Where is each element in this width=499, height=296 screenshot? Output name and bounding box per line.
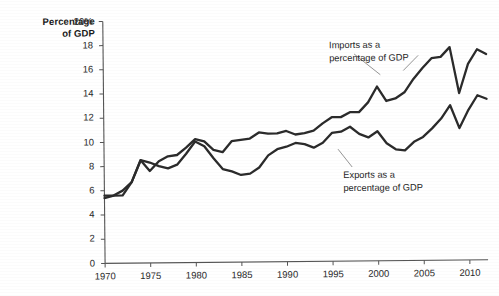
y-tick-label: 20% xyxy=(67,15,93,26)
y-tick-label: 10 xyxy=(68,136,94,147)
chart-skew-wrapper: Percentage of GDP 02468101214161820% 197… xyxy=(0,0,499,296)
x-axis-ticks xyxy=(105,260,470,268)
series-line xyxy=(103,47,487,198)
y-axis-title-line2: of GDP xyxy=(13,27,95,39)
y-tick-label: 6 xyxy=(68,184,94,195)
y-tick-label: 2 xyxy=(69,233,95,244)
y-tick-label: 12 xyxy=(68,112,94,123)
x-axis-line xyxy=(105,260,488,264)
y-tick-label: 14 xyxy=(67,88,93,99)
y-tick-label: 18 xyxy=(67,39,93,50)
y-tick-label: 0 xyxy=(69,257,95,268)
exports-annotation: Exports as a percentage of GDP xyxy=(343,168,423,194)
x-tick-label: 1990 xyxy=(270,268,306,279)
data-series-group xyxy=(103,47,487,198)
x-tick-label: 1980 xyxy=(178,269,214,280)
chart-figure: Percentage of GDP 02468101214161820% 197… xyxy=(0,0,499,296)
y-tick-label: 16 xyxy=(67,63,93,74)
x-tick-label: 1985 xyxy=(224,269,260,280)
axis-lines xyxy=(103,18,488,264)
x-tick-label: 2010 xyxy=(452,267,488,278)
y-tick-label: 8 xyxy=(68,160,94,171)
x-tick-label: 1970 xyxy=(87,270,123,281)
x-tick-label: 1995 xyxy=(315,268,351,279)
x-tick-label: 2005 xyxy=(406,267,442,278)
x-tick-label: 2000 xyxy=(361,268,397,279)
imports-annotation: Imports as a percentage of GDP xyxy=(329,38,409,64)
series-line xyxy=(104,95,488,195)
y-tick-label: 4 xyxy=(69,209,95,220)
x-tick-label: 1975 xyxy=(133,270,169,281)
exports-leader-line xyxy=(338,149,352,167)
